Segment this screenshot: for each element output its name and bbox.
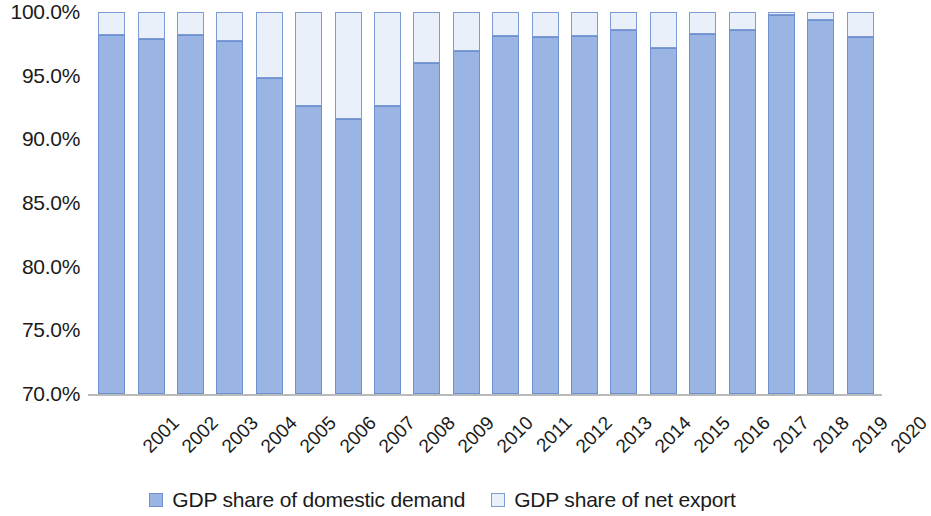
bar-segment-domestic-demand[interactable]: [256, 78, 283, 394]
bar-segment-domestic-demand[interactable]: [374, 106, 401, 394]
x-axis-tick-label: 2019: [847, 412, 892, 457]
legend-item[interactable]: GDP share of domestic demand: [149, 488, 465, 512]
bar-segment-domestic-demand[interactable]: [610, 30, 637, 394]
bar-segment-domestic-demand[interactable]: [177, 35, 204, 394]
bar-group[interactable]: [335, 12, 362, 394]
bar-segment-domestic-demand[interactable]: [807, 20, 834, 394]
bar-segment-domestic-demand[interactable]: [768, 15, 795, 394]
plot-area: [92, 12, 880, 394]
bar-segment-net-export[interactable]: [807, 12, 834, 20]
bar-segment-domestic-demand[interactable]: [847, 37, 874, 394]
x-axis-tick-label: 2013: [611, 412, 656, 457]
x-axis-tick-label: 2006: [335, 412, 380, 457]
x-axis-tick-label: 2007: [374, 412, 419, 457]
bar-segment-domestic-demand[interactable]: [571, 36, 598, 394]
bar-group[interactable]: [650, 12, 677, 394]
bar-segment-net-export[interactable]: [532, 12, 559, 37]
bar-group[interactable]: [98, 12, 125, 394]
x-axis-tick-label: 2002: [177, 412, 222, 457]
x-axis-baseline: [88, 394, 882, 396]
x-axis-tick-label: 2001: [138, 412, 183, 457]
legend-swatch-icon: [491, 493, 505, 507]
bar-segment-net-export[interactable]: [374, 12, 401, 106]
y-axis-tick-label: 80.0%: [22, 255, 80, 279]
bar-segment-domestic-demand[interactable]: [295, 106, 322, 394]
y-axis-tick-label: 70.0%: [22, 382, 80, 406]
bar-segment-domestic-demand[interactable]: [729, 30, 756, 394]
bar-group[interactable]: [138, 12, 165, 394]
bar-group[interactable]: [413, 12, 440, 394]
y-axis-tick-label: 100.0%: [11, 0, 80, 24]
x-axis-tick-label: 2009: [453, 412, 498, 457]
legend-label: GDP share of domestic demand: [172, 488, 465, 512]
bar-segment-domestic-demand[interactable]: [216, 41, 243, 394]
bar-segment-net-export[interactable]: [689, 12, 716, 34]
chart-legend: GDP share of domestic demandGDP share of…: [0, 484, 885, 516]
bar-group[interactable]: [610, 12, 637, 394]
bar-segment-domestic-demand[interactable]: [532, 37, 559, 394]
bar-group[interactable]: [807, 12, 834, 394]
y-axis-tick-label: 95.0%: [22, 64, 80, 88]
x-axis-tick-label: 2018: [808, 412, 853, 457]
bar-group[interactable]: [689, 12, 716, 394]
y-axis-tick-label: 90.0%: [22, 127, 80, 151]
bar-segment-domestic-demand[interactable]: [492, 36, 519, 394]
bar-group[interactable]: [492, 12, 519, 394]
bar-group[interactable]: [729, 12, 756, 394]
bar-group[interactable]: [177, 12, 204, 394]
x-axis-tick-label: 2012: [571, 412, 616, 457]
x-axis-tick-label: 2008: [414, 412, 459, 457]
x-axis-tick-label: 2017: [768, 412, 813, 457]
legend-swatch-icon: [149, 493, 163, 507]
x-axis: 2001200220032004200520062007200820092010…: [92, 398, 880, 474]
x-axis-tick-label: 2004: [256, 412, 301, 457]
bar-segment-net-export[interactable]: [768, 12, 795, 15]
bar-segment-net-export[interactable]: [453, 12, 480, 51]
bar-segment-net-export[interactable]: [335, 12, 362, 119]
bar-group[interactable]: [847, 12, 874, 394]
y-axis: 100.0%95.0%90.0%85.0%80.0%75.0%70.0%: [0, 0, 86, 400]
bar-segment-domestic-demand[interactable]: [138, 39, 165, 394]
x-axis-tick-label: 2015: [690, 412, 735, 457]
x-axis-tick-label: 2016: [729, 412, 774, 457]
bar-segment-domestic-demand[interactable]: [98, 35, 125, 394]
bar-segment-domestic-demand[interactable]: [335, 119, 362, 394]
x-axis-tick-label: 2014: [650, 412, 695, 457]
bar-group[interactable]: [768, 12, 795, 394]
x-axis-tick-label: 2010: [493, 412, 538, 457]
bar-segment-net-export[interactable]: [256, 12, 283, 78]
bar-segment-net-export[interactable]: [138, 12, 165, 39]
x-axis-tick-label: 2020: [887, 412, 931, 457]
bar-group[interactable]: [571, 12, 598, 394]
bar-segment-domestic-demand[interactable]: [689, 34, 716, 394]
bar-segment-net-export[interactable]: [729, 12, 756, 30]
bar-group[interactable]: [216, 12, 243, 394]
bar-segment-net-export[interactable]: [610, 12, 637, 30]
x-axis-tick-label: 2005: [296, 412, 341, 457]
legend-item[interactable]: GDP share of net export: [491, 488, 735, 512]
x-axis-tick-label: 2011: [532, 412, 576, 456]
bar-segment-net-export[interactable]: [571, 12, 598, 36]
bar-group[interactable]: [374, 12, 401, 394]
bar-segment-net-export[interactable]: [650, 12, 677, 48]
bar-segment-net-export[interactable]: [295, 12, 322, 106]
bar-group[interactable]: [295, 12, 322, 394]
x-axis-tick-label: 2003: [217, 412, 262, 457]
bar-group[interactable]: [532, 12, 559, 394]
bar-segment-domestic-demand[interactable]: [453, 51, 480, 394]
bar-segment-net-export[interactable]: [847, 12, 874, 37]
bar-segment-domestic-demand[interactable]: [413, 63, 440, 394]
bar-segment-net-export[interactable]: [216, 12, 243, 41]
bar-group[interactable]: [256, 12, 283, 394]
bar-segment-domestic-demand[interactable]: [650, 48, 677, 394]
bar-group[interactable]: [453, 12, 480, 394]
bar-segment-net-export[interactable]: [492, 12, 519, 36]
legend-label: GDP share of net export: [514, 488, 735, 512]
y-axis-tick-label: 85.0%: [22, 191, 80, 215]
bar-segment-net-export[interactable]: [98, 12, 125, 35]
y-axis-tick-label: 75.0%: [22, 318, 80, 342]
bar-segment-net-export[interactable]: [413, 12, 440, 63]
bar-segment-net-export[interactable]: [177, 12, 204, 35]
